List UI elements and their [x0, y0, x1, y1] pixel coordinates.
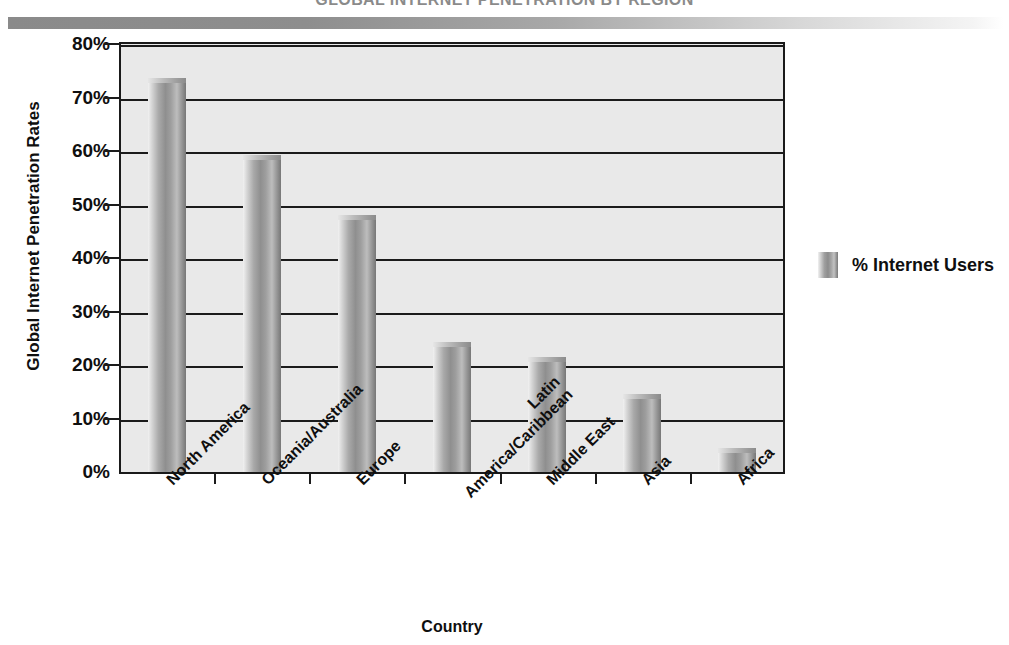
y-tick-label: 20% [48, 354, 110, 376]
bar-cap [338, 215, 376, 220]
y-tick-label: 0% [48, 461, 110, 483]
bar-latin-america-caribbean [433, 342, 471, 472]
bar-north-america [148, 78, 186, 472]
y-tick-mark [104, 204, 119, 206]
bar-cap [718, 448, 756, 453]
title-divider-rule [8, 17, 1003, 29]
bar-cap [623, 394, 661, 399]
legend: % Internet Users [818, 252, 994, 278]
bar-cap [148, 78, 186, 83]
y-tick-label: 30% [48, 301, 110, 323]
bars-layer [119, 42, 785, 474]
bar-cap [528, 357, 566, 362]
y-tick-mark [104, 311, 119, 313]
bar-europe [338, 215, 376, 472]
bar-cap [243, 155, 281, 160]
x-axis-tick-labels: North AmericaOceania/AustraliaEuropeLati… [119, 476, 785, 626]
y-tick-mark [104, 257, 119, 259]
y-tick-mark [104, 97, 119, 99]
bar-oceania-australia [243, 155, 281, 472]
y-tick-label: 10% [48, 408, 110, 430]
page-title: GLOBAL INTERNET PENETRATION BY REGION [0, 0, 1009, 9]
y-tick-mark [104, 418, 119, 420]
y-tick-label: 50% [48, 194, 110, 216]
y-tick-label: 70% [48, 87, 110, 109]
y-tick-mark [104, 43, 119, 45]
y-axis-ticks: 0%10%20%30%40%50%60%70%80% [38, 30, 110, 645]
y-tick-mark [104, 364, 119, 366]
chart-figure: Global Internet Penetration Rates 0%10%2… [0, 30, 1009, 645]
y-tick-label: 80% [48, 33, 110, 55]
legend-label-internet-users: % Internet Users [852, 255, 994, 276]
y-tick-label: 60% [48, 140, 110, 162]
y-tick-label: 40% [48, 247, 110, 269]
x-axis-title: Country [119, 618, 785, 636]
legend-swatch-internet-users [818, 252, 838, 278]
y-tick-mark [104, 150, 119, 152]
bar-cap [433, 342, 471, 347]
